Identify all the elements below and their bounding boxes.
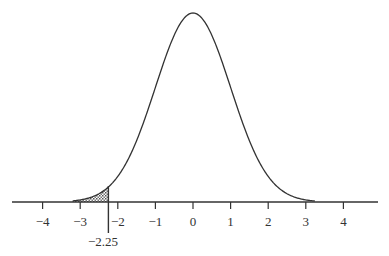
x-tick-label: 0 (190, 214, 197, 229)
x-tick-label: 3 (303, 214, 310, 229)
x-tick-label: 1 (227, 214, 234, 229)
normal-curve (73, 13, 315, 201)
annotation-label: −2.25 (88, 234, 118, 249)
x-axis-ticks: −4−3−2−101234 (36, 202, 347, 229)
x-tick-label: −4 (36, 214, 50, 229)
normal-curve-chart: −4−3−2−101234 −2.25 (0, 0, 389, 256)
x-tick-label: 4 (340, 214, 347, 229)
x-tick-label: −1 (148, 214, 162, 229)
x-tick-label: −2 (111, 214, 125, 229)
x-tick-label: −3 (73, 214, 87, 229)
x-tick-label: 2 (265, 214, 272, 229)
